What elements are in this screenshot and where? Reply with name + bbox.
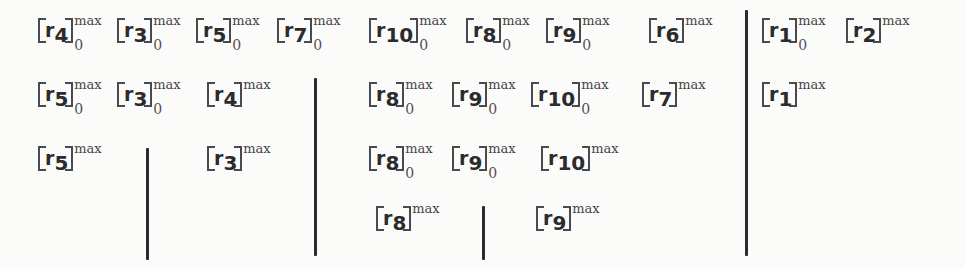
interval-term-r10: r10max0 xyxy=(531,82,580,107)
bracket-group: r8 xyxy=(466,18,501,43)
subscript-zero: 0 xyxy=(153,38,162,52)
superscript-max: max xyxy=(502,14,529,27)
figure-canvas: r4max0r3max0r5max0r7max0r10max0r8max0r9m… xyxy=(0,0,965,269)
superscript-max: max xyxy=(405,142,432,155)
subscript-zero: 0 xyxy=(798,38,807,52)
bracket-group: r9 xyxy=(546,18,581,43)
superscript-max: max xyxy=(582,14,609,27)
symbol-r: r xyxy=(376,147,385,169)
interval-term-r10: r10max xyxy=(541,146,590,171)
symbol-r: r xyxy=(553,19,562,41)
superscript-max: max xyxy=(882,14,909,27)
symbol-r: r xyxy=(124,83,133,105)
superscript-max: max xyxy=(419,14,446,27)
symbol-index: 3 xyxy=(133,87,147,111)
superscript-max: max xyxy=(74,14,101,27)
bracket-group: r7 xyxy=(642,82,677,107)
symbol-r: r xyxy=(853,19,862,41)
bracket-group: r7 xyxy=(277,18,312,43)
superscript-max: max xyxy=(591,142,618,155)
interval-term-r6: r6max xyxy=(649,18,684,43)
bracket-group: r5 xyxy=(38,82,73,107)
superscript-max: max xyxy=(798,14,825,27)
symbol-index: 10 xyxy=(385,23,413,47)
subscript-zero: 0 xyxy=(405,166,414,180)
symbol-index: 3 xyxy=(223,151,237,175)
subscript-zero: 0 xyxy=(488,166,497,180)
interval-term-r5: r5max0 xyxy=(38,82,73,107)
superscript-max: max xyxy=(153,14,180,27)
bracket-group: r8 xyxy=(369,82,404,107)
bracket-group: r5 xyxy=(196,18,231,43)
superscript-max: max xyxy=(412,202,439,215)
interval-term-r2: r2max xyxy=(846,18,881,43)
bracket-group: r1 xyxy=(762,82,797,107)
symbol-index: 9 xyxy=(468,151,482,175)
symbol-index: 2 xyxy=(862,23,876,47)
vertical-divider-bar xyxy=(314,78,317,256)
bracket-group: r8 xyxy=(369,146,404,171)
subscript-zero: 0 xyxy=(405,102,414,116)
bracket-group: r4 xyxy=(207,82,242,107)
symbol-r: r xyxy=(769,83,778,105)
symbol-index: 10 xyxy=(547,87,575,111)
symbol-r: r xyxy=(203,19,212,41)
symbol-index: 8 xyxy=(392,211,406,235)
subscript-zero: 0 xyxy=(313,38,322,52)
bracket-group: r3 xyxy=(117,82,152,107)
symbol-r: r xyxy=(459,147,468,169)
symbol-r: r xyxy=(543,207,552,229)
interval-term-r1: r1max0 xyxy=(762,18,797,43)
symbol-index: 9 xyxy=(552,211,566,235)
symbol-index: 6 xyxy=(665,23,679,47)
vertical-divider-bar xyxy=(745,10,748,256)
symbol-r: r xyxy=(124,19,133,41)
superscript-max: max xyxy=(243,142,270,155)
symbol-r: r xyxy=(769,19,778,41)
symbol-index: 9 xyxy=(468,87,482,111)
bracket-group: r9 xyxy=(452,82,487,107)
subscript-zero: 0 xyxy=(232,38,241,52)
symbol-index: 8 xyxy=(482,23,496,47)
bracket-group: r9 xyxy=(536,206,571,231)
interval-term-r3: r3max0 xyxy=(117,82,152,107)
interval-term-r3: r3max0 xyxy=(117,18,152,43)
subscript-zero: 0 xyxy=(581,102,590,116)
subscript-zero: 0 xyxy=(502,38,511,52)
symbol-r: r xyxy=(45,83,54,105)
interval-term-r8: r8max xyxy=(376,206,411,231)
symbol-index: 5 xyxy=(54,151,68,175)
superscript-max: max xyxy=(488,78,515,91)
symbol-r: r xyxy=(649,83,658,105)
symbol-r: r xyxy=(45,19,54,41)
superscript-max: max xyxy=(798,78,825,91)
superscript-max: max xyxy=(405,78,432,91)
symbol-r: r xyxy=(538,83,547,105)
symbol-index: 9 xyxy=(562,23,576,47)
interval-term-r8: r8max0 xyxy=(369,146,404,171)
vertical-divider-bar xyxy=(146,148,149,260)
interval-term-r7: r7max xyxy=(642,82,677,107)
interval-term-r9: r9max0 xyxy=(546,18,581,43)
superscript-max: max xyxy=(678,78,705,91)
symbol-r: r xyxy=(284,19,293,41)
superscript-max: max xyxy=(232,14,259,27)
bracket-group: r6 xyxy=(649,18,684,43)
symbol-index: 7 xyxy=(293,23,307,47)
interval-term-r4: r4max xyxy=(207,82,242,107)
symbol-index: 7 xyxy=(658,87,672,111)
superscript-max: max xyxy=(488,142,515,155)
symbol-r: r xyxy=(376,83,385,105)
symbol-index: 1 xyxy=(778,23,792,47)
bracket-group: r3 xyxy=(117,18,152,43)
symbol-index: 3 xyxy=(133,23,147,47)
bracket-group: r8 xyxy=(376,206,411,231)
symbol-index: 1 xyxy=(778,87,792,111)
interval-term-r9: r9max xyxy=(536,206,571,231)
interval-term-r8: r8max0 xyxy=(466,18,501,43)
superscript-max: max xyxy=(685,14,712,27)
superscript-max: max xyxy=(313,14,340,27)
symbol-r: r xyxy=(376,19,385,41)
symbol-r: r xyxy=(656,19,665,41)
symbol-index: 4 xyxy=(223,87,237,111)
